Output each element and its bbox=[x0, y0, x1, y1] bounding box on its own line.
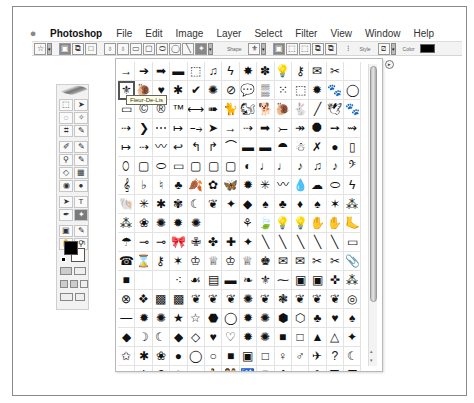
menu-filter[interactable]: Filter bbox=[295, 28, 317, 39]
shape-cell[interactable]: ▬ bbox=[222, 271, 239, 290]
shape-cell[interactable]: ◯ bbox=[188, 347, 205, 366]
shape-cell[interactable]: ➤ bbox=[205, 119, 222, 138]
shape-cell[interactable]: ⬭ bbox=[327, 176, 344, 195]
shape-cell[interactable]: ╲ bbox=[275, 233, 292, 252]
shape-cell[interactable]: ✖ bbox=[188, 366, 205, 372]
shape-cell[interactable]: △ bbox=[327, 328, 344, 347]
shape-cell[interactable] bbox=[222, 214, 239, 233]
geometry-options-dropdown[interactable]: ▾ bbox=[208, 43, 213, 55]
shape-cell[interactable]: ▢ bbox=[205, 157, 222, 176]
shape-cell[interactable] bbox=[344, 62, 361, 81]
shape-cell[interactable]: ⯊ bbox=[275, 138, 292, 157]
toolbox-tool-14[interactable]: ➤ bbox=[59, 196, 73, 208]
shape-cell[interactable]: ✹ bbox=[240, 176, 257, 195]
shape-cell[interactable]: ❦ bbox=[188, 290, 205, 309]
scroll-down-arrow-icon[interactable]: ▾ bbox=[370, 357, 373, 363]
shape-cell[interactable]: ⚷ bbox=[292, 62, 309, 81]
shape-cell[interactable]: ▩ bbox=[153, 290, 170, 309]
shape-cell[interactable]: ❦ bbox=[309, 290, 326, 309]
shape-cell[interactable]: ✳ bbox=[135, 195, 152, 214]
shape-cell[interactable]: ✳ bbox=[257, 176, 274, 195]
shape-cell[interactable]: ☆ bbox=[188, 309, 205, 328]
toolbox-tool-7[interactable]: ✎ bbox=[74, 141, 88, 153]
shape-cell[interactable]: ↦ bbox=[170, 119, 187, 138]
shape-cell[interactable]: ✂ bbox=[327, 252, 344, 271]
shape-cell[interactable]: ! bbox=[135, 366, 152, 372]
shape-cell[interactable]: ? bbox=[153, 366, 170, 372]
shape-cell[interactable]: ■ bbox=[118, 271, 135, 290]
shape-cell[interactable]: ⬚ bbox=[292, 81, 309, 100]
shape-cell[interactable]: 💡 bbox=[275, 214, 292, 233]
tool-preset-icon[interactable]: ☆ bbox=[34, 43, 46, 55]
shape-cell[interactable]: 🎀 bbox=[170, 233, 187, 252]
shape-cell[interactable]: ◎ bbox=[344, 290, 361, 309]
shape-cell[interactable]: ╲ bbox=[257, 233, 274, 252]
shape-cell[interactable]: ✔ bbox=[118, 366, 135, 372]
style-picker-button[interactable]: ⧄ bbox=[378, 43, 390, 55]
shape-cell[interactable]: ● bbox=[170, 347, 187, 366]
shape-cell[interactable]: ● bbox=[327, 138, 344, 157]
shape-cell[interactable]: ❀ bbox=[153, 347, 170, 366]
shape-cell[interactable]: ✜ bbox=[327, 271, 344, 290]
shape-cell[interactable]: ▣ bbox=[240, 347, 257, 366]
jump-to-imageready-button[interactable] bbox=[60, 293, 73, 301]
toolbox-tool-8[interactable]: ⚲ bbox=[59, 154, 73, 166]
shape-cell[interactable]: ✦ bbox=[240, 233, 257, 252]
shape-cell[interactable]: ➡ bbox=[153, 62, 170, 81]
shape-cell[interactable]: ⌛ bbox=[135, 252, 152, 271]
shape-cell[interactable]: 🐾 bbox=[327, 81, 344, 100]
shape-cell[interactable]: ✸ bbox=[240, 62, 257, 81]
shape-cell[interactable]: 🕊 bbox=[327, 100, 344, 119]
shape-cell[interactable] bbox=[153, 271, 170, 290]
shape-cell[interactable]: ⇢ bbox=[118, 119, 135, 138]
shape-cell[interactable]: ➔ bbox=[135, 62, 152, 81]
shape-cell[interactable]: ♚ bbox=[257, 252, 274, 271]
shape-cell[interactable]: ♥ bbox=[205, 328, 222, 347]
shape-cell[interactable]: ✹ bbox=[240, 309, 257, 328]
menu-app-name[interactable]: Photoshop bbox=[50, 28, 102, 39]
shape-cell[interactable]: ♣ bbox=[170, 176, 187, 195]
shape-cell[interactable]: 🐿 bbox=[240, 100, 257, 119]
toolbox-tool-10[interactable]: ◇ bbox=[59, 167, 73, 179]
pen-tool-button[interactable]: ♁ bbox=[104, 43, 116, 55]
shape-cell[interactable]: ♂ bbox=[292, 347, 309, 366]
ellipse-tool-button[interactable]: ⬭ bbox=[156, 43, 168, 55]
shape-cell[interactable]: ❦ bbox=[205, 195, 222, 214]
shape-cell[interactable]: ⇝ bbox=[344, 119, 361, 138]
shape-cell[interactable]: ▬ bbox=[170, 62, 187, 81]
paths-mode-button[interactable]: ⧉ bbox=[72, 43, 84, 55]
shape-picker-dropdown[interactable]: ▾ bbox=[261, 43, 266, 55]
shape-cell[interactable]: ▭ bbox=[170, 157, 187, 176]
toolbox-tool-1[interactable]: ➤ bbox=[74, 99, 88, 111]
shape-cell[interactable]: ♡ bbox=[222, 328, 239, 347]
shape-cell[interactable]: 💧 bbox=[292, 176, 309, 195]
shape-cell[interactable]: ☙ bbox=[188, 271, 205, 290]
shape-cell[interactable]: ☾ bbox=[153, 328, 170, 347]
shape-cell[interactable]: ▼ bbox=[292, 366, 309, 372]
shape-cell[interactable]: ◆ bbox=[240, 195, 257, 214]
shape-cell[interactable]: ✺ bbox=[257, 328, 274, 347]
shape-cell[interactable]: ⌒ bbox=[222, 138, 239, 157]
shape-cell[interactable]: ◐ bbox=[240, 157, 257, 176]
shape-cell[interactable]: ⬣ bbox=[205, 309, 222, 328]
shape-layers-mode-button[interactable]: ▣ bbox=[59, 43, 71, 55]
shape-cell[interactable]: ✈ bbox=[309, 347, 326, 366]
toolbox-tool-0[interactable]: ⬚ bbox=[59, 99, 73, 111]
shape-cell[interactable]: ☃ bbox=[292, 138, 309, 157]
toolbox-tool-12[interactable]: ◉ bbox=[59, 180, 73, 192]
shape-cell[interactable]: ↦ bbox=[118, 138, 135, 157]
shape-cell[interactable]: ╲ bbox=[309, 233, 326, 252]
shape-cell[interactable]: ❦ bbox=[327, 290, 344, 309]
shape-cell[interactable]: ▣ bbox=[292, 271, 309, 290]
shape-cell[interactable]: ⇢ bbox=[135, 138, 152, 157]
shape-cell[interactable]: ⁂ bbox=[118, 214, 135, 233]
link-icon[interactable]: ⁝ bbox=[342, 43, 354, 55]
shape-cell[interactable]: ⊸ bbox=[135, 233, 152, 252]
shape-cell[interactable]: ♕ bbox=[205, 252, 222, 271]
tool-preset-dropdown[interactable]: ▾ bbox=[47, 43, 52, 55]
shape-cell[interactable]: ⚘ bbox=[240, 214, 257, 233]
shape-cell[interactable]: ⚷ bbox=[153, 252, 170, 271]
shape-cell[interactable]: ❯ bbox=[135, 119, 152, 138]
shape-cell[interactable]: 🐚 bbox=[118, 195, 135, 214]
toolbox-tool-2[interactable]: ◌ bbox=[59, 112, 73, 124]
